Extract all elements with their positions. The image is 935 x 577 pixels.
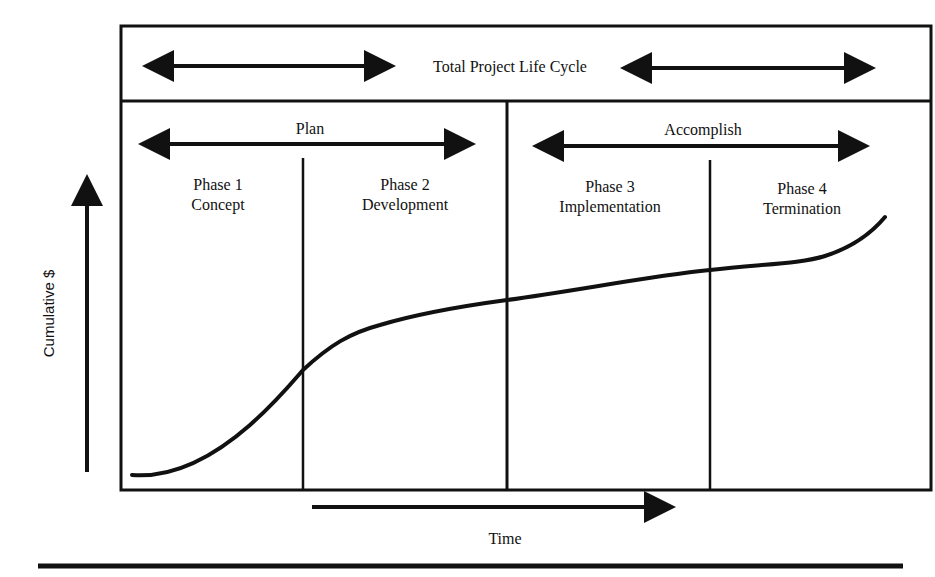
phase-name: Implementation (535, 197, 685, 217)
phase-name: Termination (727, 199, 877, 219)
group-label-accomplish: Accomplish (643, 120, 763, 140)
phase-1-label: Phase 1 Concept (148, 175, 288, 215)
phase-number: Phase 4 (727, 179, 877, 199)
phase-number: Phase 3 (535, 177, 685, 197)
phase-number: Phase 1 (148, 175, 288, 195)
y-axis-label: Cumulative $ (40, 264, 57, 364)
life-cycle-diagram (0, 0, 935, 577)
header-title: Total Project Life Cycle (400, 57, 620, 77)
phase-4-label: Phase 4 Termination (727, 179, 877, 219)
x-axis-label: Time (465, 529, 545, 549)
phase-3-label: Phase 3 Implementation (535, 177, 685, 217)
group-label-plan: Plan (260, 119, 360, 139)
phase-number: Phase 2 (330, 175, 480, 195)
phase-name: Concept (148, 195, 288, 215)
phase-2-label: Phase 2 Development (330, 175, 480, 215)
phase-name: Development (330, 195, 480, 215)
